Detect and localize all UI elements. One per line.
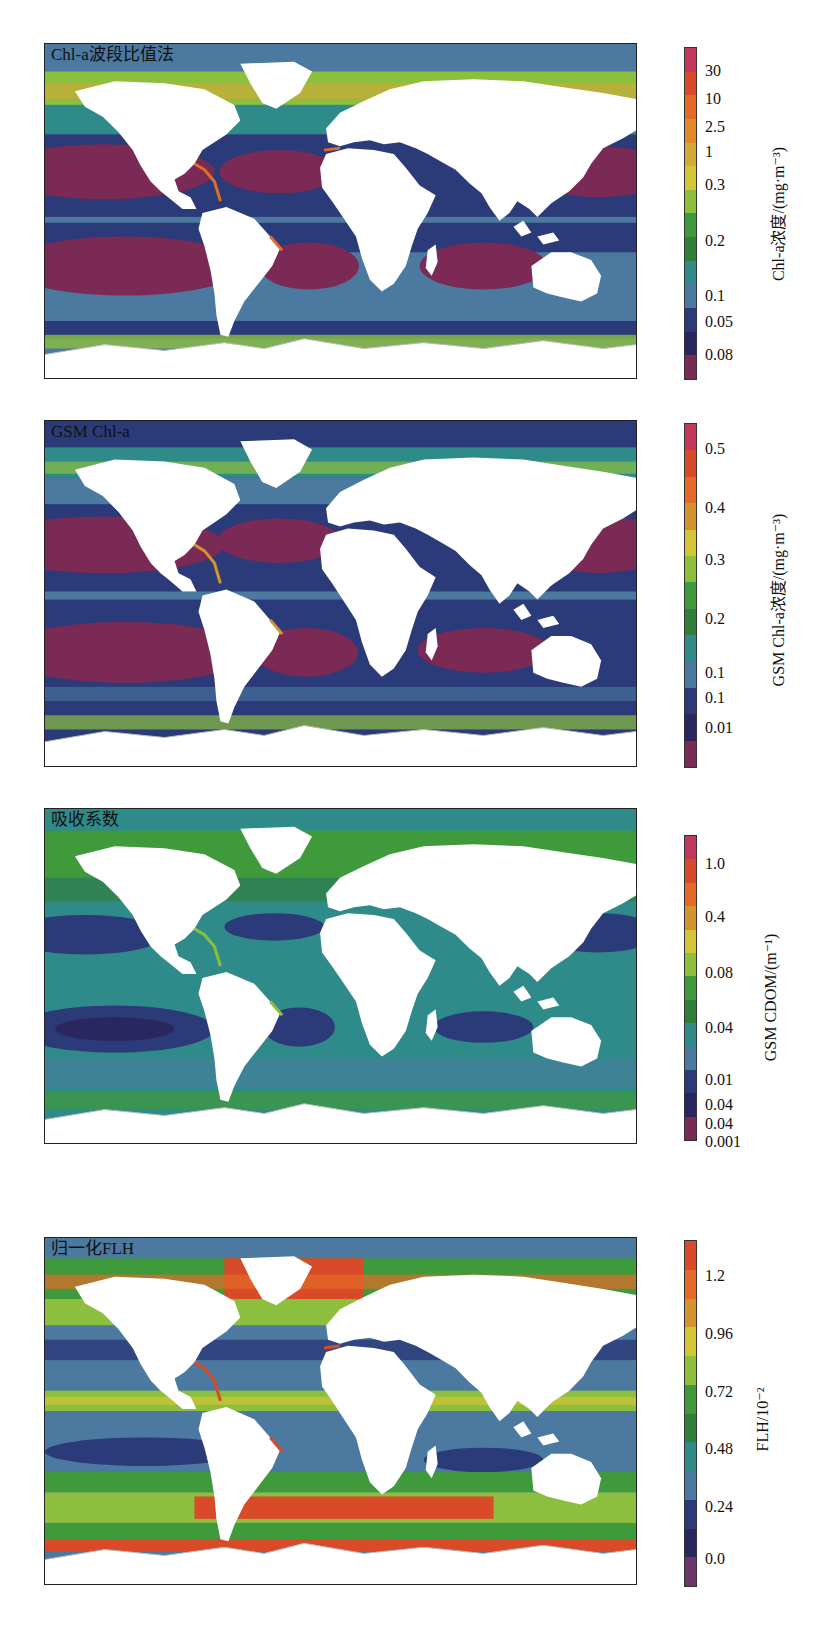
colorbar-tick: 0.05 — [705, 314, 733, 330]
colorbar-segment — [685, 119, 696, 143]
colorbar-segment — [685, 284, 696, 308]
colorbar-label: GSM Chl-a浓度/(mg·m⁻³) — [765, 505, 789, 695]
colorbar-segment — [685, 836, 696, 859]
colorbar-segment — [685, 261, 696, 285]
colorbar-segment — [685, 48, 696, 72]
ocean-map-chl-band-ratio — [45, 44, 636, 378]
colorbar-segment — [685, 190, 696, 214]
colorbar-tick: 0.1 — [705, 690, 725, 706]
colorbar-segment — [685, 1093, 696, 1116]
colorbar-segment — [685, 1471, 696, 1500]
colorbar-tick: 0.3 — [705, 552, 725, 568]
colorbar-segment — [685, 883, 696, 906]
colorbar-tick: 0.2 — [705, 233, 725, 249]
colorbar-segment — [685, 714, 696, 740]
colorbar-segment — [685, 1000, 696, 1023]
panel-title: 归一化FLH — [51, 1239, 134, 1259]
colorbar-segment — [685, 530, 696, 556]
colorbar-label: GSM CDOM/(m⁻¹) — [761, 923, 780, 1073]
colorbar-tick: 0.04 — [705, 1097, 733, 1113]
colorbar-segment — [685, 355, 696, 379]
colorbar-segment — [685, 1047, 696, 1070]
colorbar-segment — [685, 1023, 696, 1046]
panel-title: Chl-a波段比值法 — [51, 45, 174, 65]
colorbar-tick: 0.48 — [705, 1441, 733, 1457]
colorbar-segment — [685, 930, 696, 953]
colorbar-segment — [685, 1442, 696, 1471]
colorbar-tick: 1.2 — [705, 1268, 725, 1284]
colorbar-segment — [685, 859, 696, 882]
colorbar-segment — [685, 906, 696, 929]
colorbar-segment — [685, 308, 696, 332]
colorbar-segment — [685, 332, 696, 356]
colorbar-segment — [685, 1500, 696, 1529]
map-panel-gsm-chl: GSM Chl-a — [44, 420, 637, 767]
colorbar-segment — [685, 662, 696, 688]
colorbar-label: Chl-a浓度/(mg·m⁻³) — [765, 139, 789, 289]
colorbar-tick: 0.4 — [705, 500, 725, 516]
colorbar-tick: 0.1 — [705, 288, 725, 304]
panel-title: 吸收系数 — [51, 810, 119, 830]
colorbar-segment — [685, 1117, 696, 1140]
colorbar-segment — [685, 1270, 696, 1299]
colorbar-label: FLH/10⁻² — [753, 1370, 772, 1470]
ocean-map-cdom-absorption — [45, 809, 636, 1143]
colorbar-tick: 0.96 — [705, 1326, 733, 1342]
colorbar-segment — [685, 1414, 696, 1443]
colorbar-segment — [685, 1529, 696, 1558]
colorbar-segment — [685, 450, 696, 476]
colorbar-segment — [685, 582, 696, 608]
colorbar-segment — [685, 143, 696, 167]
colorbar-tick: 1.0 — [705, 856, 725, 872]
colorbar-tick: 0.04 — [705, 1020, 733, 1036]
colorbar-segment — [685, 1070, 696, 1093]
colorbar-segment — [685, 1385, 696, 1414]
colorbar-segment — [685, 609, 696, 635]
panel-title: GSM Chl-a — [51, 422, 130, 442]
colorbar-tick: 2.5 — [705, 119, 725, 135]
colorbar-tick: 0.5 — [705, 441, 725, 457]
colorbar-segment — [685, 741, 696, 767]
colorbar-segment — [685, 1299, 696, 1328]
colorbar-gsm-chl — [684, 423, 697, 768]
colorbar-tick: 0.001 — [705, 1134, 741, 1150]
colorbar-chl-band-ratio — [684, 47, 697, 380]
colorbar-segment — [685, 213, 696, 237]
map-panel-chl-band-ratio: Chl-a波段比值法 — [44, 43, 637, 379]
map-panel-normalized-flh: 归一化FLH — [44, 1237, 637, 1585]
colorbar-normalized-flh — [684, 1240, 697, 1587]
colorbar-segment — [685, 166, 696, 190]
colorbar-segment — [685, 1356, 696, 1385]
colorbar-segment — [685, 635, 696, 661]
colorbar-segment — [685, 503, 696, 529]
colorbar-tick: 0.4 — [705, 909, 725, 925]
colorbar-tick: 0.01 — [705, 720, 733, 736]
colorbar-segment — [685, 477, 696, 503]
colorbar-tick: 1 — [705, 144, 713, 160]
colorbar-segment — [685, 953, 696, 976]
colorbar-tick: 0.0 — [705, 1551, 725, 1567]
colorbar-tick: 0.08 — [705, 347, 733, 363]
colorbar-segment — [685, 1327, 696, 1356]
colorbar-tick: 0.08 — [705, 965, 733, 981]
colorbar-tick: 0.01 — [705, 1072, 733, 1088]
ocean-map-gsm-chl — [45, 421, 636, 766]
colorbar-tick: 0.3 — [705, 177, 725, 193]
colorbar-segment — [685, 1557, 696, 1586]
colorbar-tick: 10 — [705, 91, 721, 107]
map-panel-cdom-absorption: 吸收系数 — [44, 808, 637, 1144]
colorbar-tick: 30 — [705, 63, 721, 79]
colorbar-tick: 0.04 — [705, 1116, 733, 1132]
colorbar-segment — [685, 95, 696, 119]
colorbar-tick: 0.72 — [705, 1384, 733, 1400]
colorbar-tick: 0.24 — [705, 1499, 733, 1515]
colorbar-segment — [685, 976, 696, 999]
colorbar-segment — [685, 1241, 696, 1270]
colorbar-segment — [685, 556, 696, 582]
colorbar-tick: 0.1 — [705, 665, 725, 681]
colorbar-segment — [685, 424, 696, 450]
ocean-map-normalized-flh — [45, 1238, 636, 1584]
colorbar-segment — [685, 237, 696, 261]
colorbar-segment — [685, 72, 696, 96]
colorbar-tick: 0.2 — [705, 611, 725, 627]
